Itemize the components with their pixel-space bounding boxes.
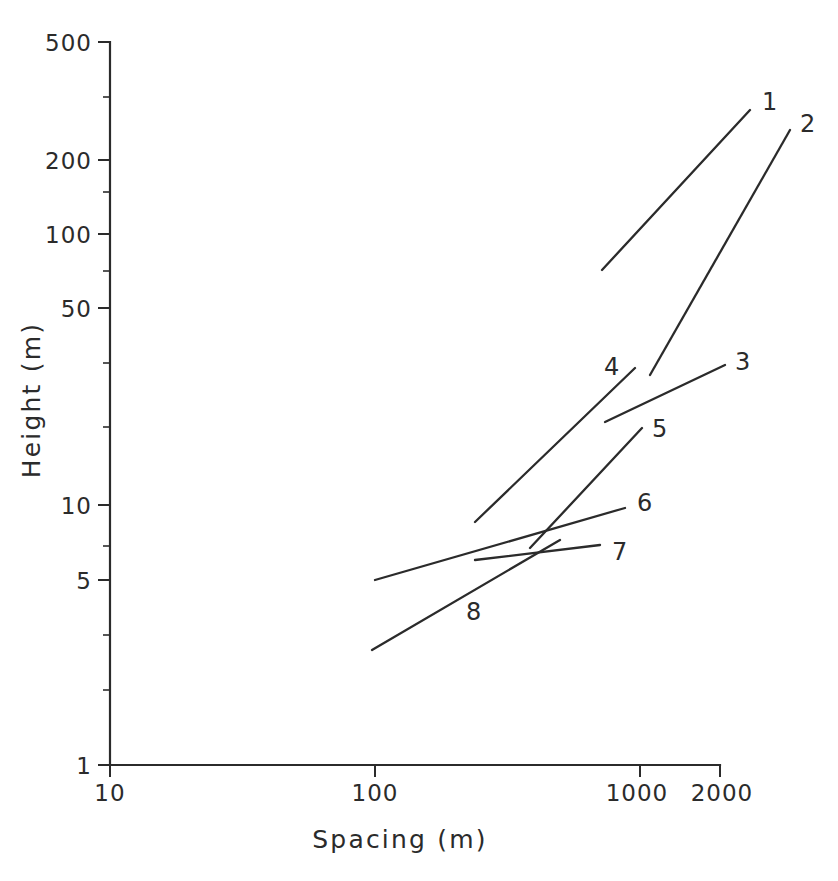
y-tick-label-10: 10 <box>61 493 92 519</box>
series-label-8: 8 <box>466 598 482 626</box>
series-label-2: 2 <box>800 110 816 138</box>
x-tick-label-10: 10 <box>94 780 125 806</box>
y-tick-label-200: 200 <box>45 148 92 174</box>
series-label-1: 1 <box>762 88 778 116</box>
y-tick-label-1: 1 <box>76 753 92 779</box>
series-line-6 <box>375 508 625 580</box>
y-axis-title: Height (m) <box>17 322 46 478</box>
chart-figure: 500 200 100 50 10 5 1 10 100 1000 2000 H… <box>0 0 838 881</box>
y-tick-label-5: 5 <box>76 568 92 594</box>
series-line-3 <box>605 365 725 422</box>
series-label-5: 5 <box>652 415 668 443</box>
chart-canvas: 500 200 100 50 10 5 1 10 100 1000 2000 H… <box>0 0 838 881</box>
y-tick-label-50: 50 <box>61 296 92 322</box>
series-label-3: 3 <box>735 348 751 376</box>
series-label-6: 6 <box>637 489 653 517</box>
y-tick-label-500: 500 <box>45 30 92 56</box>
axis-y <box>98 42 110 765</box>
series-label-4: 4 <box>604 353 620 381</box>
series-line-2 <box>650 130 790 375</box>
x-tick-label-1000: 1000 <box>606 780 669 806</box>
series-line-1 <box>602 110 750 270</box>
series-label-7: 7 <box>612 538 628 566</box>
x-tick-label-100: 100 <box>352 780 399 806</box>
x-axis-title: Spacing (m) <box>312 825 487 854</box>
axis-x <box>110 765 720 777</box>
series-line-8 <box>372 540 560 650</box>
x-tick-label-2000: 2000 <box>691 780 754 806</box>
series-line-4 <box>475 368 635 522</box>
y-tick-label-100: 100 <box>45 222 92 248</box>
